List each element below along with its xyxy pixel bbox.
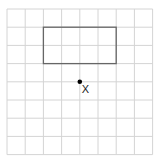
grid-diagram bbox=[0, 0, 157, 159]
point-x-label: X bbox=[82, 84, 89, 95]
